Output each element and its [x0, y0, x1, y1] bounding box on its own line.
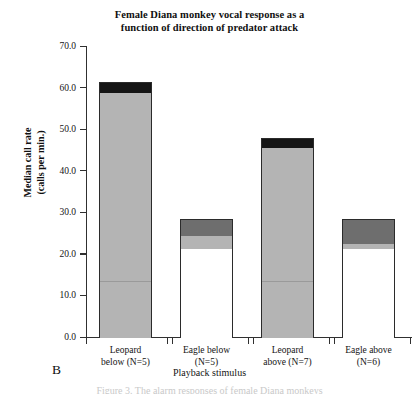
y-axis-tick-label: 40.0: [34, 166, 76, 176]
x-axis-label-4: Eagle above(N=6): [321, 345, 416, 368]
y-axis-tick: [80, 170, 86, 171]
x-axis-label-line-1: Eagle above: [321, 345, 416, 357]
bar-segment: [262, 139, 313, 148]
y-axis-tick-label: 0.0: [34, 332, 76, 342]
x-axis-tick: [329, 338, 330, 344]
x-axis-tick: [248, 338, 249, 344]
y-axis-tick: [80, 129, 86, 130]
bar-segment: [343, 249, 394, 338]
y-axis-tick-label: 20.0: [34, 249, 76, 259]
x-axis-title: Playback stimulus: [0, 367, 419, 378]
y-axis-title: Median call rate (calls per min.): [22, 83, 47, 243]
x-axis-tick: [253, 338, 254, 344]
y-axis-tick-label: 50.0: [34, 124, 76, 134]
y-axis-tick-label: 60.0: [34, 83, 76, 93]
bar-segment: [181, 249, 232, 338]
y-axis-tick-label: 10.0: [34, 290, 76, 300]
bar-segment: [100, 83, 151, 93]
x-axis-tick: [334, 338, 335, 344]
x-axis-tick: [410, 338, 411, 344]
panel-label: B: [52, 362, 61, 378]
y-axis-line: [86, 46, 87, 338]
y-axis-title-line-1: Median call rate: [22, 83, 35, 243]
y-axis-tick: [80, 46, 86, 47]
bar-2[interactable]: [180, 219, 233, 337]
y-axis-tick: [80, 253, 86, 254]
caption-fragment: Figure 3. The alarm responses of female …: [0, 385, 419, 394]
bar-4[interactable]: [342, 219, 395, 337]
x-axis-tick: [167, 338, 168, 344]
bar-1[interactable]: [99, 82, 152, 337]
x-axis-tick: [172, 338, 173, 344]
chart-title-line-1: Female Diana monkey vocal response as a: [0, 8, 419, 21]
chart-title: Female Diana monkey vocal response as a …: [0, 8, 419, 34]
bar-segment: [100, 93, 151, 281]
y-axis-tick-label: 70.0: [34, 41, 76, 51]
y-axis-tick: [80, 87, 86, 88]
bar-3[interactable]: [261, 138, 314, 337]
y-axis-tick: [80, 212, 86, 213]
bar-segment: [100, 281, 151, 338]
bar-segment: [262, 148, 313, 281]
x-axis-tick: [86, 338, 87, 344]
bar-segment: [181, 220, 232, 236]
y-axis-title-line-2: (calls per min.): [34, 83, 47, 243]
chart-title-line-2: function of direction of predator attack: [0, 21, 419, 34]
bar-segment: [262, 281, 313, 338]
y-axis-tick: [80, 295, 86, 296]
y-axis-tick-label: 30.0: [34, 207, 76, 217]
bar-segment: [343, 220, 394, 244]
bar-segment: [181, 236, 232, 249]
